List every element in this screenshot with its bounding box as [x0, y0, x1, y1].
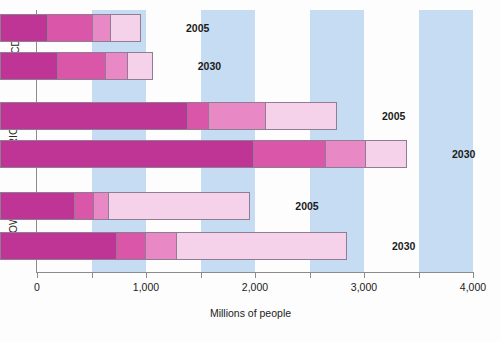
x-axis-tick	[364, 272, 365, 278]
bar-segment[interactable]	[58, 53, 106, 79]
x-axis-tick-label: 3,000	[351, 281, 377, 293]
bar-value-label: 2005	[382, 110, 405, 122]
stacked-bar[interactable]	[0, 14, 141, 42]
bar-segment[interactable]	[146, 233, 177, 259]
x-axis-tick	[419, 272, 420, 278]
stacked-bar-chart: OECD 2005 2030 BRIC 2005 2030 ROW 2005 2…	[0, 0, 501, 342]
bar-segment[interactable]	[111, 15, 140, 41]
bar-segment[interactable]	[1, 53, 58, 79]
x-axis-tick-label: 1,000	[133, 281, 159, 293]
bar-value-label: 2005	[295, 200, 318, 212]
bar-value-label: 2030	[392, 240, 415, 252]
bar-segment[interactable]	[1, 233, 117, 259]
bar-segment[interactable]	[188, 103, 210, 129]
x-axis-tick-label: 4,000	[460, 281, 486, 293]
bar-segment[interactable]	[326, 141, 366, 167]
x-axis-tick	[92, 272, 93, 278]
bar-segment[interactable]	[128, 53, 151, 79]
x-axis-tick	[473, 272, 474, 278]
stacked-bar[interactable]	[0, 192, 250, 220]
bar-segment[interactable]	[117, 233, 146, 259]
x-axis-tick	[310, 272, 311, 278]
bar-segment[interactable]	[1, 193, 75, 219]
bar-value-label: 2030	[198, 60, 221, 72]
stacked-bar[interactable]	[0, 52, 153, 80]
bar-segment[interactable]	[1, 103, 188, 129]
stacked-bar[interactable]	[0, 102, 337, 130]
stacked-bar[interactable]	[0, 232, 347, 260]
x-axis-tick	[37, 272, 38, 278]
background-band	[419, 10, 474, 272]
bar-segment[interactable]	[1, 15, 48, 41]
bar-segment[interactable]	[94, 193, 109, 219]
bar-segment[interactable]	[48, 15, 93, 41]
bar-segment[interactable]	[366, 141, 406, 167]
x-axis-tick	[255, 272, 256, 278]
x-axis-tick	[146, 272, 147, 278]
bar-segment[interactable]	[106, 53, 128, 79]
bar-segment[interactable]	[209, 103, 266, 129]
x-axis-tick-label: 2,000	[242, 281, 268, 293]
bar-segment[interactable]	[75, 193, 94, 219]
bar-segment[interactable]	[1, 141, 254, 167]
x-axis-tick	[201, 272, 202, 278]
bar-segment[interactable]	[254, 141, 326, 167]
bar-value-label: 2030	[452, 148, 475, 160]
stacked-bar[interactable]	[0, 140, 407, 168]
bar-segment[interactable]	[93, 15, 111, 41]
x-axis-tick-label: 0	[34, 281, 40, 293]
x-axis-title: Millions of people	[0, 307, 501, 319]
bar-segment[interactable]	[266, 103, 336, 129]
bar-segment[interactable]	[177, 233, 346, 259]
bar-segment[interactable]	[109, 193, 249, 219]
bar-value-label: 2005	[186, 22, 209, 34]
